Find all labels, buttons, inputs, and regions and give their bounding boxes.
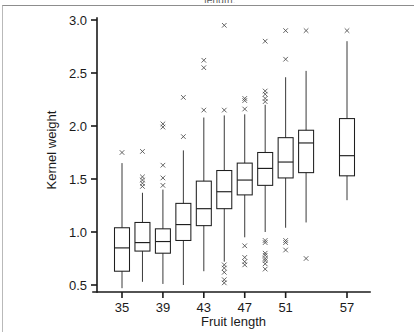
- box-iqr: [237, 163, 252, 195]
- box-iqr: [196, 181, 211, 226]
- x-tick-label: 57: [340, 300, 354, 315]
- outlier-marker: [242, 243, 247, 248]
- axis-labels-layer: 3.02.52.01.51.00.5353943475157Fruit leng…: [44, 13, 354, 330]
- outlier-marker: [202, 58, 207, 63]
- boxplot-group: [217, 23, 232, 285]
- boxplot-group: [135, 149, 150, 282]
- box-iqr: [135, 222, 150, 251]
- y-tick-label: 2.0: [69, 119, 87, 134]
- x-tick-label: 43: [197, 300, 211, 315]
- box-iqr: [217, 171, 232, 209]
- outlier-marker: [140, 149, 145, 154]
- x-tick-label: 35: [115, 300, 129, 315]
- outlier-marker: [161, 183, 166, 188]
- outlier-marker: [222, 270, 227, 275]
- outlier-marker: [283, 57, 288, 62]
- outlier-marker: [263, 96, 268, 101]
- outlier-marker: [345, 28, 350, 33]
- boxplot-group: [299, 28, 314, 260]
- boxplot-group: [115, 150, 130, 288]
- outlier-marker: [161, 122, 166, 127]
- outlier-marker: [242, 107, 247, 112]
- outlier-marker: [161, 176, 166, 181]
- boxplot-canvas: 3.02.52.01.51.00.5353943475157Fruit leng…: [0, 0, 417, 334]
- boxplot-group: [278, 28, 293, 252]
- outlier-marker: [181, 95, 186, 100]
- boxplot-group: [237, 96, 252, 267]
- outlier-marker: [140, 175, 145, 180]
- outlier-marker: [181, 134, 186, 139]
- y-tick-label: 3.0: [69, 13, 87, 28]
- outlier-marker: [120, 150, 125, 155]
- box-iqr: [299, 130, 314, 172]
- x-axis-title: Fruit length: [201, 314, 266, 329]
- outlier-marker: [222, 263, 227, 268]
- outlier-marker: [263, 267, 268, 272]
- outlier-marker: [263, 39, 268, 44]
- outlier-marker: [263, 89, 268, 94]
- y-tick-label: 0.5: [69, 278, 87, 293]
- outlier-marker: [283, 28, 288, 33]
- outlier-marker: [304, 256, 309, 261]
- boxplot-group: [258, 39, 273, 272]
- axes-layer: [91, 18, 370, 298]
- boxplot-group: [176, 95, 191, 285]
- boxplot-group: [340, 28, 355, 200]
- outlier-marker: [283, 248, 288, 253]
- outlier-marker: [222, 23, 227, 28]
- boxplot-group: [155, 122, 170, 284]
- boxes-layer: [115, 23, 355, 288]
- outlier-marker: [222, 277, 227, 282]
- outlier-marker: [202, 108, 207, 113]
- y-tick-label: 2.5: [69, 66, 87, 81]
- y-tick-label: 1.0: [69, 225, 87, 240]
- outlier-marker: [242, 255, 247, 260]
- box-iqr: [115, 228, 130, 271]
- outlier-marker: [304, 28, 309, 33]
- outlier-marker: [161, 163, 166, 168]
- boxplot-figure: length. 3.02.52.01.51.00.5353943475157Fr…: [0, 0, 417, 334]
- x-tick-label: 39: [156, 300, 170, 315]
- box-iqr: [278, 138, 293, 178]
- box-iqr: [176, 203, 191, 240]
- outlier-marker: [202, 65, 207, 70]
- y-axis-title: Kernel weight: [44, 110, 59, 189]
- outlier-marker: [242, 259, 247, 264]
- x-tick-label: 47: [237, 300, 251, 315]
- box-iqr: [340, 119, 355, 176]
- boxplot-group: [196, 58, 211, 271]
- outlier-marker: [222, 108, 227, 113]
- x-tick-label: 51: [278, 300, 292, 315]
- y-tick-label: 1.5: [69, 172, 87, 187]
